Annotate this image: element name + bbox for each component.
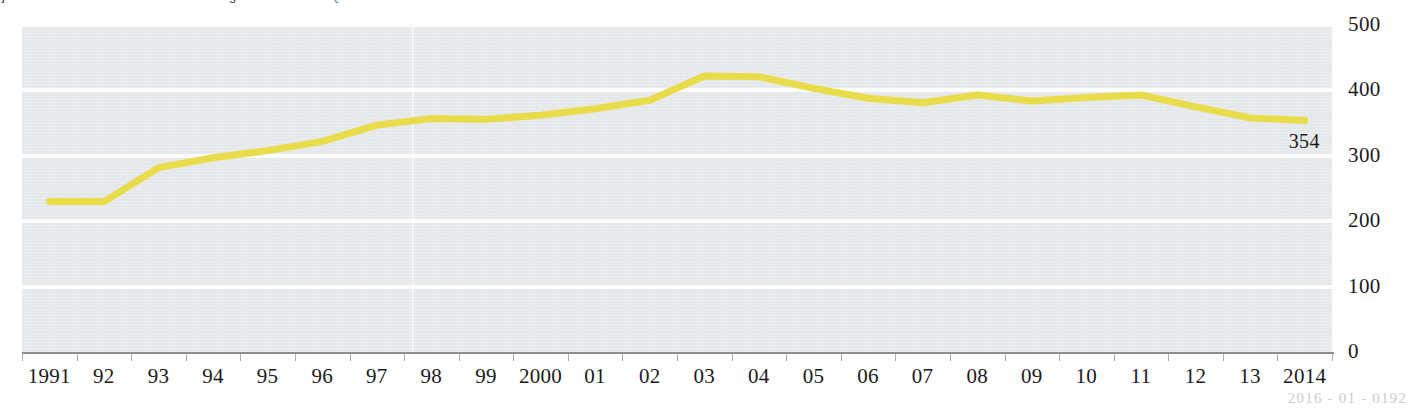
x-tick-mark [732,354,733,361]
x-tick-label: 05 [803,364,825,389]
line-series-svg [0,0,1415,417]
x-tick-mark [1168,354,1169,361]
x-tick-label: 10 [1076,364,1098,389]
x-tick-label: 03 [693,364,715,389]
end-value-label: 354 [1289,130,1320,153]
x-tick-label: 01 [584,364,606,389]
x-tick-mark [1005,354,1006,361]
x-tick-label: 02 [639,364,661,389]
x-tick-label: 98 [421,364,443,389]
x-tick-label: 13 [1239,364,1261,389]
x-tick-label: 04 [748,364,770,389]
x-tick-mark [1114,354,1115,361]
y-tick-label: 400 [1348,77,1381,102]
x-tick-mark [350,354,351,361]
x-tick-mark [77,354,78,361]
chart-figure: jede dritte Ehe im Laufe von 25 Jahren g… [0,0,1415,417]
x-tick-mark [786,354,787,361]
x-tick-mark [841,354,842,361]
x-tick-label: 99 [475,364,497,389]
x-tick-mark [295,354,296,361]
x-tick-mark [1332,354,1333,361]
x-tick-label: 09 [1021,364,1043,389]
x-tick-label: 2014 [1283,364,1326,389]
watermark: 2016 - 01 - 0192 [1288,390,1407,407]
x-tick-label: 94 [202,364,224,389]
x-tick-mark [568,354,569,361]
x-tick-mark [240,354,241,361]
x-tick-label: 93 [148,364,170,389]
y-tick-label: 0 [1348,339,1359,364]
x-tick-mark [1059,354,1060,361]
x-tick-label: 92 [93,364,115,389]
x-tick-label: 06 [857,364,879,389]
x-tick-label: 11 [1131,364,1152,389]
x-tick-mark [131,354,132,361]
x-tick-mark [677,354,678,361]
y-tick-label: 300 [1348,143,1381,168]
x-tick-label: 95 [257,364,279,389]
x-tick-label: 96 [311,364,333,389]
x-tick-mark [1277,354,1278,361]
x-tick-mark [404,354,405,361]
y-tick-label: 500 [1348,12,1381,37]
x-tick-label: 2000 [519,364,562,389]
x-tick-mark [22,354,23,361]
x-tick-label: 12 [1185,364,1207,389]
x-tick-label: 07 [912,364,934,389]
x-tick-mark [1223,354,1224,361]
x-tick-mark [950,354,951,361]
x-tick-label: 97 [366,364,388,389]
y-tick-label: 100 [1348,274,1381,299]
y-tick-label: 200 [1348,208,1381,233]
x-tick-label: 1991 [28,364,71,389]
x-tick-label: 08 [966,364,988,389]
data-line [49,76,1304,202]
x-tick-mark [895,354,896,361]
x-tick-mark [459,354,460,361]
x-axis-line [22,352,1334,354]
x-tick-mark [622,354,623,361]
x-tick-mark [513,354,514,361]
x-tick-mark [186,354,187,361]
